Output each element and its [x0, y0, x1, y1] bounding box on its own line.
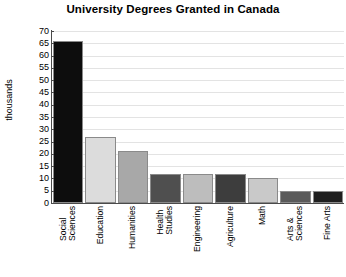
y-tick-label: 70: [3, 27, 49, 36]
y-tick-mark: [51, 56, 54, 57]
x-tick-label: Fine Arts: [312, 206, 344, 277]
bar-chart: University Degrees Granted in Canada tho…: [0, 0, 346, 277]
x-tick-label: HealthStudies: [149, 206, 181, 277]
y-tick-mark: [51, 166, 54, 167]
gridline: [52, 117, 344, 118]
x-tick-label: SocialSciences: [52, 206, 84, 277]
y-tick-mark: [51, 191, 54, 192]
y-tick-label: 15: [3, 162, 49, 171]
plot-area: [52, 31, 344, 203]
bar[interactable]: [53, 41, 83, 203]
y-tick-label: 20: [3, 149, 49, 158]
plot-inner: [52, 31, 344, 203]
y-tick-mark: [51, 142, 54, 143]
x-tick-label: Arts &Sciences: [279, 206, 311, 277]
x-tick-label: Agriculture: [214, 206, 246, 277]
y-tick-mark: [51, 154, 54, 155]
y-tick-label: 5: [3, 186, 49, 195]
gridline: [52, 43, 344, 44]
x-tick-label: Education: [84, 206, 116, 277]
bar[interactable]: [248, 178, 278, 203]
y-tick-mark: [51, 68, 54, 69]
y-tick-label: 0: [3, 199, 49, 208]
y-tick-label: 65: [3, 39, 49, 48]
y-axis-tick-labels: 7065605550454035302520151050: [0, 31, 49, 203]
bar[interactable]: [150, 174, 180, 203]
y-tick-label: 30: [3, 125, 49, 134]
bar[interactable]: [85, 137, 115, 203]
x-tick-label: Engineering: [182, 206, 214, 277]
bar[interactable]: [313, 191, 343, 203]
bar[interactable]: [118, 151, 148, 203]
bar[interactable]: [215, 174, 245, 203]
y-tick-mark: [51, 80, 54, 81]
y-tick-mark: [51, 178, 54, 179]
gridline: [52, 56, 344, 57]
y-tick-mark: [51, 129, 54, 130]
y-tick-label: 55: [3, 63, 49, 72]
gridline: [52, 68, 344, 69]
y-tick-label: 10: [3, 174, 49, 183]
y-tick-label: 45: [3, 88, 49, 97]
x-tick-label: Humanities: [117, 206, 149, 277]
y-tick-mark: [51, 117, 54, 118]
y-tick-mark: [51, 105, 54, 106]
x-axis-line: [51, 203, 344, 204]
gridline: [52, 80, 344, 81]
x-tick-label: Math: [247, 206, 279, 277]
y-tick-label: 40: [3, 100, 49, 109]
gridline: [52, 129, 344, 130]
y-tick-label: 25: [3, 137, 49, 146]
gridline: [52, 105, 344, 106]
gridline: [52, 92, 344, 93]
y-tick-mark: [51, 92, 54, 93]
y-tick-label: 35: [3, 113, 49, 122]
y-tick-mark: [51, 31, 54, 32]
x-axis-tick-labels: SocialSciencesEducationHumanitiesHealthS…: [52, 206, 344, 277]
y-tick-mark: [51, 43, 54, 44]
bar[interactable]: [280, 191, 310, 203]
bar[interactable]: [183, 174, 213, 203]
y-tick-mark: [51, 203, 54, 204]
y-tick-label: 50: [3, 76, 49, 85]
chart-title: University Degrees Granted in Canada: [0, 3, 346, 15]
gridline: [52, 31, 344, 32]
y-tick-label: 60: [3, 51, 49, 60]
